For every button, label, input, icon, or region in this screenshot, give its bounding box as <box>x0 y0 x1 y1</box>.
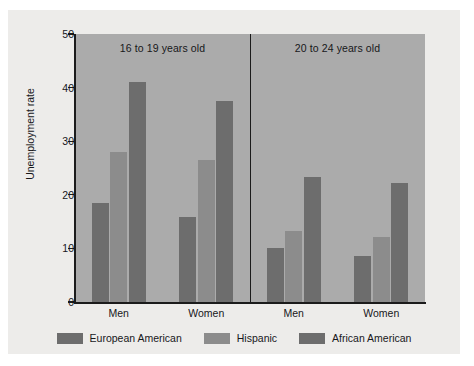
legend-label: European American <box>90 332 182 344</box>
panel-title: 20 to 24 years old <box>250 42 425 54</box>
x-tick-label: Men <box>109 307 129 319</box>
legend-swatch <box>204 333 230 344</box>
y-tick-label: 10 <box>22 242 74 254</box>
legend-swatch <box>57 333 83 344</box>
y-tick-label: 50 <box>22 28 74 40</box>
chart-legend: European AmericanHispanicAfrican America… <box>8 332 460 344</box>
bar <box>285 231 302 302</box>
chart-figure: 01020304050 Unemployment rate 16 to 19 y… <box>8 10 460 354</box>
legend-item: European American <box>57 332 182 344</box>
legend-swatch <box>299 333 325 344</box>
bar <box>129 82 146 302</box>
y-axis-title: Unemployment rate <box>24 74 36 194</box>
y-axis-ticks: 01020304050 <box>8 10 74 354</box>
bar <box>216 101 233 302</box>
legend-label: African American <box>332 332 411 344</box>
x-tick-label: Women <box>188 307 224 319</box>
y-axis-line <box>74 34 76 303</box>
bar <box>373 237 390 302</box>
plot-area: 16 to 19 years old20 to 24 years old <box>75 34 425 302</box>
x-tick-label: Men <box>284 307 304 319</box>
bar <box>304 177 321 302</box>
panel-title: 16 to 19 years old <box>75 42 250 54</box>
bar <box>179 217 196 302</box>
bar <box>267 248 284 302</box>
panel-divider <box>250 34 251 302</box>
x-axis-line <box>74 302 426 304</box>
y-tick-label: 0 <box>22 296 74 308</box>
bar <box>92 203 109 302</box>
bar <box>110 152 127 302</box>
bar <box>354 256 371 302</box>
legend-item: African American <box>299 332 411 344</box>
legend-label: Hispanic <box>237 332 277 344</box>
legend-item: Hispanic <box>204 332 277 344</box>
bar <box>391 183 408 302</box>
x-tick-label: Women <box>363 307 399 319</box>
bar <box>198 160 215 302</box>
